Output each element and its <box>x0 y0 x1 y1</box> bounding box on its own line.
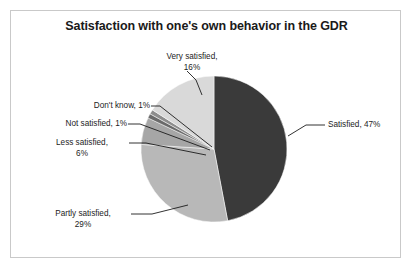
slice-label-very-satisfied-line1: Very satisfied, <box>134 52 250 63</box>
pie-slice-satisfied <box>214 76 287 221</box>
slice-label-very-satisfied-line2: 16% <box>134 63 250 74</box>
slice-label-partly-satisfied-line1: Partly satisfied, <box>36 209 130 220</box>
slice-label-satisfied: Satisfied, 47% <box>328 120 412 131</box>
slice-label-not-satisfied: Not satisfied, 1% <box>8 119 127 130</box>
slice-label-partly-satisfied-line2: 29% <box>36 220 130 231</box>
pie-chart-figure: Satisfaction with one's own behavior in … <box>0 0 413 270</box>
slice-label-less-satisfied: Less satisfied, 6% <box>36 138 128 159</box>
pie-slice-partly-satisfied <box>141 144 228 222</box>
pie-slices-group <box>141 76 287 222</box>
slice-label-very-satisfied: Very satisfied, 16% <box>134 52 250 73</box>
slice-label-partly-satisfied: Partly satisfied, 29% <box>36 209 130 230</box>
slice-label-dont-know: Don't know, 1% <box>31 101 150 112</box>
leader-line-satisfied <box>288 125 325 136</box>
slice-label-less-satisfied-line2: 6% <box>36 149 128 160</box>
slice-label-less-satisfied-line1: Less satisfied, <box>36 138 128 149</box>
